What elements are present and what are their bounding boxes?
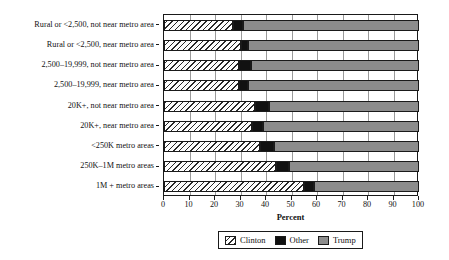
y-axis-tick — [156, 186, 159, 187]
y-axis-tick — [156, 145, 159, 146]
y-axis-label: 2,500–19,999, near metro area — [54, 80, 154, 89]
legend-item-clinton: Clinton — [225, 235, 266, 245]
bar-segment-trump — [243, 20, 419, 31]
y-axis-tick — [156, 105, 159, 106]
bar-segment-clinton — [164, 161, 276, 172]
bar-segment-clinton — [164, 181, 304, 192]
bar-row — [164, 181, 417, 192]
bar-segment-other — [239, 60, 250, 71]
x-axis-tick-label: 100 — [403, 200, 433, 210]
bar-segment-trump — [274, 141, 419, 152]
bar-row — [164, 121, 417, 132]
x-axis-tick-labels: 0102030405060708090100 — [0, 200, 449, 212]
bar-segment-clinton — [164, 60, 239, 71]
y-axis-label: 20K+, near metro area — [80, 121, 154, 130]
bar-segment-trump — [248, 40, 419, 51]
y-axis-label: 1M + metro areas — [96, 181, 154, 190]
y-axis-tick — [156, 44, 159, 45]
bar-row — [164, 40, 417, 51]
plot-area — [163, 14, 418, 196]
y-axis-label: 2,500–19,999, not near metro area — [41, 60, 154, 69]
y-axis-label: Rural or <2,500, near metro area — [47, 40, 154, 49]
trump-swatch-icon — [318, 236, 329, 245]
bar-segment-other — [304, 181, 314, 192]
y-axis-label: 250K–1M metro areas — [80, 161, 154, 170]
clinton-swatch-icon — [225, 236, 236, 245]
legend-label-trump: Trump — [333, 235, 356, 245]
y-axis-tick — [156, 65, 159, 66]
y-axis-label: <250K metro areas — [91, 141, 154, 150]
x-axis-title: Percent — [163, 212, 418, 222]
bar-segment-clinton — [164, 20, 233, 31]
bar-segment-other — [233, 20, 243, 31]
bar-row — [164, 141, 417, 152]
y-axis-tick — [156, 24, 159, 25]
legend-item-trump: Trump — [318, 235, 356, 245]
bar-segment-trump — [269, 101, 419, 112]
bar-segment-clinton — [164, 121, 252, 132]
bar-segment-other — [276, 161, 289, 172]
bar-segment-trump — [263, 121, 419, 132]
y-axis-labels: Rural or <2,500, not near metro areaRura… — [0, 14, 159, 196]
bar-segment-trump — [289, 161, 419, 172]
y-axis-label: Rural or <2,500, not near metro area — [34, 20, 154, 29]
bar-segment-other — [239, 80, 248, 91]
bar-segment-other — [241, 40, 249, 51]
bar-segment-trump — [251, 60, 419, 71]
bar-segment-other — [260, 141, 274, 152]
bar-segment-clinton — [164, 80, 239, 91]
bar-row — [164, 80, 417, 91]
legend-label-other: Other — [290, 235, 309, 245]
bar-row — [164, 161, 417, 172]
stacked-bar-chart: Rural or <2,500, not near metro areaRura… — [0, 0, 449, 260]
bar-row — [164, 20, 417, 31]
y-axis-tick — [156, 166, 159, 167]
bar-row — [164, 60, 417, 71]
bar-segment-trump — [248, 80, 419, 91]
bar-segment-clinton — [164, 101, 255, 112]
y-axis-label: 20K+, not near metro area — [68, 101, 154, 110]
bar-row — [164, 101, 417, 112]
other-swatch-icon — [275, 236, 286, 245]
bar-segment-clinton — [164, 141, 260, 152]
y-axis-tick — [156, 125, 159, 126]
legend-item-other: Other — [275, 235, 309, 245]
chart-legend: Clinton Other Trump — [218, 231, 363, 249]
bar-series-container — [164, 15, 417, 195]
bar-segment-other — [252, 121, 263, 132]
bar-segment-other — [255, 101, 269, 112]
bar-segment-clinton — [164, 40, 241, 51]
bar-segment-trump — [314, 181, 419, 192]
legend-label-clinton: Clinton — [240, 235, 266, 245]
y-axis-tick — [156, 85, 159, 86]
